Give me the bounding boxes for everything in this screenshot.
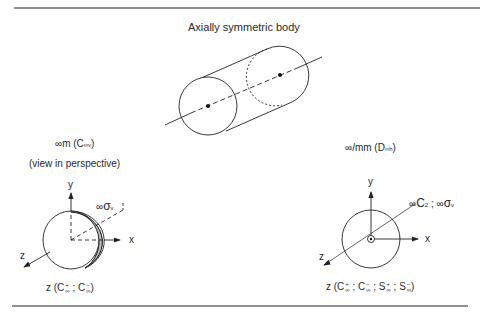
right-elements-label: ∞C2 ; ∞σv — [409, 196, 454, 210]
right-axis-y-label: y — [368, 176, 373, 187]
diagram-title: Axially symmetric body — [188, 21, 300, 33]
left-plane-label: ∞σv — [96, 199, 114, 213]
right-axis-x-label: x — [425, 233, 430, 244]
right-axis-z-label: z — [319, 251, 324, 262]
left-z-representation: z (C+∞ ; C−∞) — [46, 282, 94, 294]
right-z-representation: z (C+∞ ; C−∞ ; S+∞ ; S−∞) — [326, 281, 414, 293]
left-caption: (view in perspective) — [29, 158, 120, 169]
left-axis-z-label: z — [20, 250, 25, 261]
left-axis-y-label: y — [68, 179, 73, 190]
right-point-group: ∞/mm (D∞h) — [345, 142, 396, 153]
left-axis-x-label: x — [129, 234, 134, 245]
left-point-group: ∞m (C∞v) — [55, 138, 94, 149]
cylinder-figure — [165, 46, 322, 135]
right-disc-figure — [324, 192, 418, 268]
